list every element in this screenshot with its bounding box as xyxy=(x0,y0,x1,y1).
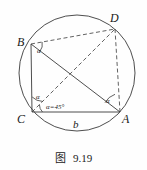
segment-da-dashed xyxy=(115,29,120,112)
vertex-label-d: D xyxy=(110,12,119,24)
caption-number: 9.19 xyxy=(73,153,92,164)
segment-bc xyxy=(31,44,32,112)
side-label-b: b xyxy=(73,119,79,130)
circumscribed-circle xyxy=(19,15,135,131)
vertex-label-c: C xyxy=(17,113,25,125)
vertex-label-a: A xyxy=(122,113,129,125)
vertex-label-b: B xyxy=(17,36,24,48)
angle-label-c-upper: α xyxy=(36,94,40,101)
angle-label-c-45-degrees: α=45° xyxy=(46,104,64,111)
caption-label: 图 xyxy=(55,153,66,164)
angle-label-b: α xyxy=(37,48,41,55)
figure-9-19: B C A D α α α=45° α b 图 9.19 xyxy=(0,0,147,170)
angle-label-a: α xyxy=(106,98,110,105)
figure-caption: 图 9.19 xyxy=(0,148,147,168)
angle-arc-c-lower xyxy=(39,105,42,113)
